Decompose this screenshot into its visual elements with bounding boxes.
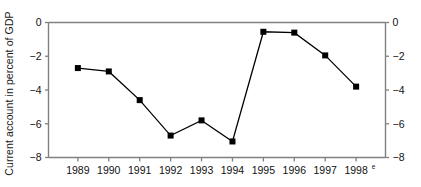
data-point-marker — [137, 97, 143, 103]
x-tick-label: 1994 — [221, 164, 245, 176]
data-point-marker — [260, 29, 266, 35]
x-tick-label: 1990 — [97, 164, 121, 176]
data-point-marker — [291, 30, 297, 36]
y-tick-label-right: 0 — [393, 16, 399, 28]
x-axis-ticks: 1989199019911992199319941995199619971998… — [66, 158, 375, 177]
y-tick-label-left: −8 — [30, 151, 42, 163]
x-tick-label: 1998 — [344, 164, 368, 176]
x-tick-label: 1989 — [66, 164, 90, 176]
data-line — [78, 32, 356, 142]
data-point-marker — [322, 52, 328, 58]
x-tick-label: 1992 — [159, 164, 183, 176]
y-tick-label-right: −6 — [393, 118, 405, 130]
x-tick-label: 1993 — [190, 164, 214, 176]
y-tick-label-left: −2 — [30, 50, 42, 62]
plot-frame — [49, 23, 386, 158]
y-tick-label-left: −4 — [30, 84, 42, 96]
y-tick-label-right: −4 — [393, 84, 405, 96]
x-tick-label-superscript: e — [372, 163, 376, 170]
x-tick-label: 1995 — [252, 164, 276, 176]
data-series-current-account — [75, 29, 359, 145]
y-tick-label-right: −2 — [393, 50, 405, 62]
y-tick-label-left: 0 — [36, 16, 42, 28]
data-point-marker — [199, 117, 205, 123]
x-tick-label: 1996 — [283, 164, 307, 176]
chart-plot-area: 00−2−2−4−4−6−6−8−81989199019911992199319… — [0, 0, 421, 187]
x-tick-label: 1997 — [314, 164, 338, 176]
data-point-marker — [353, 84, 359, 90]
data-point-marker — [168, 133, 174, 139]
data-point-marker — [106, 68, 112, 74]
y-tick-label-left: −6 — [30, 118, 42, 130]
data-point-marker — [75, 65, 81, 71]
data-point-marker — [229, 138, 235, 144]
x-tick-label: 1991 — [128, 164, 152, 176]
y-axis-ticks: 00−2−2−4−4−6−6−8−8 — [30, 16, 405, 163]
y-tick-label-right: −8 — [393, 151, 405, 163]
chart-container: Current account in percent of GDP 00−2−2… — [0, 0, 421, 187]
